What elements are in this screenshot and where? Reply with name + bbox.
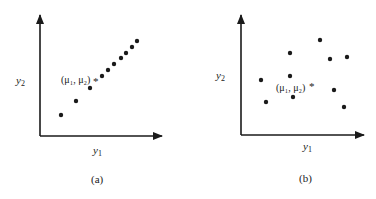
- data-points: [259, 38, 349, 109]
- mean-marker: *: [93, 75, 99, 87]
- x-axis-label: y1: [92, 144, 102, 158]
- caption-a: (a): [91, 173, 104, 186]
- mean-label: (μ₁, μ₂): [276, 82, 305, 94]
- y-axis-label: y2: [15, 74, 25, 88]
- mean-label: (μ₁, μ₂): [61, 74, 90, 86]
- figure: * (μ₁, μ₂) y2 y1 (a) * (μ₁, μ₂) y2 y1 (b…: [0, 0, 376, 199]
- y-axis-label: y2: [215, 69, 225, 83]
- caption-b: (b): [299, 172, 312, 185]
- mean-marker: *: [309, 80, 315, 92]
- panel-a: * (μ₁, μ₂) y2 y1 (a): [15, 15, 162, 186]
- panel-b: * (μ₁, μ₂) y2 y1 (b): [215, 15, 364, 185]
- x-axis-label: y1: [302, 140, 312, 154]
